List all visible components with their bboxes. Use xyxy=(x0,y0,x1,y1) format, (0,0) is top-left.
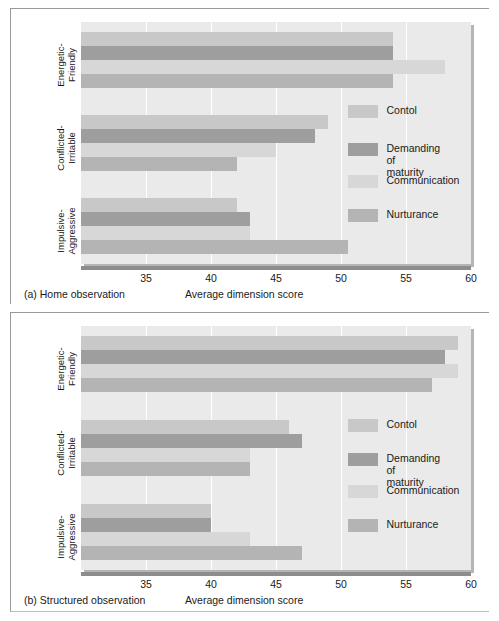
bar xyxy=(81,129,315,143)
plot-area-b: ContolDemanding of maturityCommunication… xyxy=(81,326,471,570)
bar xyxy=(81,504,211,518)
category-label: Impulsive- Aggressive xyxy=(55,477,77,597)
legend-label: Communication xyxy=(387,174,460,186)
x-tick-label: 35 xyxy=(140,272,152,284)
bar xyxy=(81,32,393,46)
legend-item: Nurturance xyxy=(348,518,439,532)
x-axis-ticks-a: 354045505560 xyxy=(81,272,471,286)
bar xyxy=(81,546,302,560)
x-tick-label: 40 xyxy=(205,578,217,590)
legend-item: Contol xyxy=(348,104,417,118)
figure-root: Parents of children who were: Energetic-… xyxy=(0,0,499,621)
bar xyxy=(81,350,445,364)
bar xyxy=(81,143,276,157)
x-tick-label: 50 xyxy=(335,272,347,284)
legend-swatch xyxy=(348,105,378,118)
x-tick-label: 55 xyxy=(400,578,412,590)
x-tick-label: 55 xyxy=(400,272,412,284)
legend-label: Contol xyxy=(387,104,417,116)
bar xyxy=(81,420,289,434)
category-labels-b: Energetic- FriendlyConflicted- Irritable… xyxy=(50,326,82,570)
bar xyxy=(81,532,250,546)
legend-swatch xyxy=(348,175,378,188)
legend-item: Nurturance xyxy=(348,208,439,222)
bar-group xyxy=(81,336,471,392)
bar-group xyxy=(81,198,471,254)
chart-panel-structured-observation: Parents of children who were: Energetic-… xyxy=(10,312,489,612)
legend-label: Communication xyxy=(387,484,460,496)
x-tick-label: 60 xyxy=(465,272,477,284)
category-labels-a: Energetic- FriendlyConflicted- Irritable… xyxy=(50,22,82,264)
bar xyxy=(81,518,211,532)
x-axis-line-b xyxy=(81,572,471,576)
legend-label: Demanding of maturity xyxy=(387,142,441,178)
legend-swatch xyxy=(348,209,378,222)
plot-area-a: ContolDemanding of maturityCommunication… xyxy=(81,22,471,264)
panel-caption-b: (b) Structured observation xyxy=(24,594,145,606)
x-axis-title-b: Average dimension score xyxy=(185,594,303,606)
x-axis-line-a xyxy=(81,266,471,270)
x-tick-label: 45 xyxy=(270,578,282,590)
bar xyxy=(81,434,302,448)
x-tick-label: 35 xyxy=(140,578,152,590)
legend-label: Contol xyxy=(387,418,417,430)
legend-item: Contol xyxy=(348,418,417,432)
legend-item: Demanding of maturity xyxy=(348,452,441,488)
bar xyxy=(81,448,250,462)
x-tick-label: 40 xyxy=(205,272,217,284)
bar-groups-b xyxy=(81,326,471,570)
bar xyxy=(81,462,250,476)
legend-item: Communication xyxy=(348,484,460,498)
chart-panel-home-observation: Parents of children who were: Energetic-… xyxy=(10,8,489,304)
x-tick-label: 60 xyxy=(465,578,477,590)
x-axis-ticks-b: 354045505560 xyxy=(81,578,471,592)
bar xyxy=(81,336,458,350)
legend-swatch xyxy=(348,143,378,156)
bar xyxy=(81,212,250,226)
bar xyxy=(81,115,328,129)
bar xyxy=(81,198,237,212)
x-axis-title-a: Average dimension score xyxy=(185,288,303,300)
bar xyxy=(81,60,445,74)
bar xyxy=(81,364,458,378)
legend-label: Nurturance xyxy=(387,518,439,530)
bar xyxy=(81,240,348,254)
legend-swatch xyxy=(348,453,378,466)
panel-caption-a: (a) Home observation xyxy=(24,288,125,300)
x-tick-label: 50 xyxy=(335,578,347,590)
legend-item: Communication xyxy=(348,174,460,188)
bar xyxy=(81,46,393,60)
legend-label: Demanding of maturity xyxy=(387,452,441,488)
category-label: Impulsive- Aggressive xyxy=(55,171,77,291)
bar xyxy=(81,226,250,240)
legend-swatch xyxy=(348,419,378,432)
legend-label: Nurturance xyxy=(387,208,439,220)
bar xyxy=(81,157,237,171)
legend-swatch xyxy=(348,485,378,498)
bar xyxy=(81,378,432,392)
legend-swatch xyxy=(348,519,378,532)
bar xyxy=(81,74,393,88)
x-tick-label: 45 xyxy=(270,272,282,284)
legend-item: Demanding of maturity xyxy=(348,142,441,178)
bar-group xyxy=(81,504,471,560)
bar-group xyxy=(81,32,471,88)
